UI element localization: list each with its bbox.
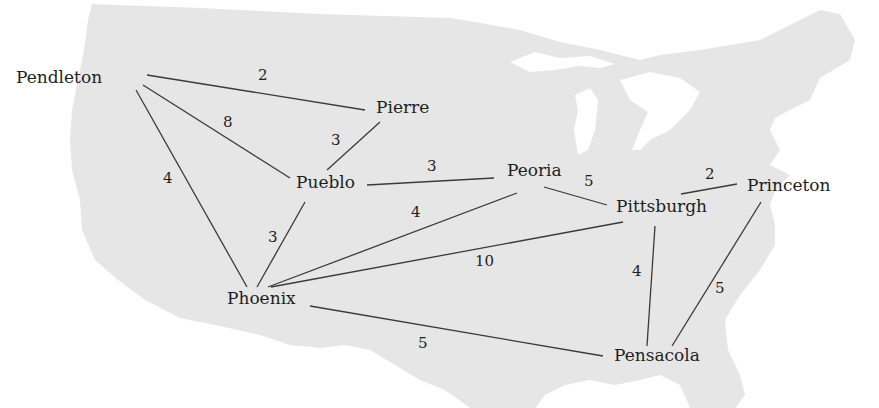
edge-weight-peoria-phoenix: 4 <box>411 205 421 220</box>
node-princeton: Princeton <box>747 177 831 194</box>
edge-weight-princeton-pensacola: 5 <box>715 281 725 296</box>
diagram-stage <box>0 0 879 408</box>
node-pittsburgh: Pittsburgh <box>616 198 707 215</box>
node-phoenix: Phoenix <box>227 290 296 307</box>
edge-weight-pueblo-peoria: 3 <box>427 159 437 174</box>
edge-weight-pittsburgh-phoenix: 10 <box>475 254 494 269</box>
edge-weight-pittsburgh-princeton: 2 <box>705 167 715 182</box>
edge-weight-pendleton-pueblo: 8 <box>223 115 233 130</box>
edge-weight-pendleton-phoenix: 4 <box>163 171 173 186</box>
edge-weight-pittsburgh-pensacola: 4 <box>632 264 642 279</box>
graph-diagram: 28433354102455 PendletonPierrePuebloPeor… <box>0 0 879 408</box>
edge-weight-peoria-pittsburgh: 5 <box>584 174 594 189</box>
us-map-silhouette <box>70 4 855 408</box>
edge-weight-pierre-pueblo: 3 <box>331 133 341 148</box>
node-pendleton: Pendleton <box>16 69 102 86</box>
edge-weight-phoenix-pensacola: 5 <box>418 336 428 351</box>
node-peoria: Peoria <box>507 162 562 179</box>
node-pueblo: Pueblo <box>296 174 355 191</box>
edge-weight-pueblo-phoenix: 3 <box>268 230 278 245</box>
node-pensacola: Pensacola <box>614 347 700 364</box>
node-pierre: Pierre <box>376 99 429 116</box>
edge-weight-pendleton-pierre: 2 <box>258 68 268 83</box>
